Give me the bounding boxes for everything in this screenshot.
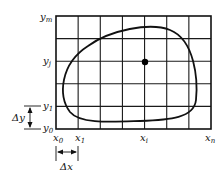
grid-diagram: ym yj y1 y0 x0 x1 xi xn Δy Δx bbox=[0, 0, 222, 176]
arrow-right-icon bbox=[71, 150, 77, 155]
arrow-down-icon bbox=[28, 122, 33, 128]
arrow-left-icon bbox=[57, 150, 63, 155]
label-delta-x: Δx bbox=[59, 161, 73, 172]
label-ym: ym bbox=[39, 11, 53, 24]
label-y0: y0 bbox=[42, 122, 54, 135]
grid-point bbox=[142, 59, 148, 65]
label-xi: xi bbox=[140, 132, 148, 145]
label-xn: xn bbox=[205, 132, 216, 145]
arrow-up-icon bbox=[28, 107, 33, 113]
label-x1: x1 bbox=[75, 132, 85, 145]
label-y1: y1 bbox=[42, 100, 53, 113]
closed-curve bbox=[63, 27, 196, 122]
label-x0: x0 bbox=[53, 132, 64, 145]
label-yj: yj bbox=[42, 55, 52, 68]
label-delta-y: Δy bbox=[11, 112, 25, 123]
delta-x-dimension: Δx bbox=[56, 146, 78, 172]
delta-y-dimension: Δy bbox=[11, 106, 41, 129]
